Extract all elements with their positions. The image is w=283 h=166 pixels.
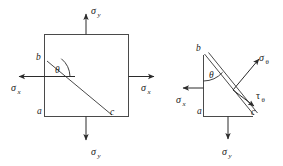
right-theta-label: θ: [209, 70, 214, 80]
stress-element-diagram: b a c θ σ y σ y σ x σ x: [0, 0, 283, 166]
right-sigma-x-label: σ x: [176, 94, 187, 108]
sigma-theta-label: σ θ: [259, 52, 270, 66]
subscript-glyph: x: [147, 88, 152, 96]
right-vertex-label-c: c: [251, 107, 256, 117]
diagram-canvas: b a c θ σ y σ y σ x σ x: [0, 0, 283, 166]
sigma-glyph: σ: [91, 5, 97, 16]
left-theta-label: θ: [55, 65, 60, 75]
left-figure-group: b a c θ σ y σ y σ x σ x: [11, 5, 154, 160]
sigma-glyph: σ: [176, 94, 182, 105]
square-outline: [45, 35, 129, 117]
right-vertex-label-b: b: [196, 43, 201, 53]
tau-theta-arrow: [233, 90, 254, 106]
left-sigma-y-top-label: σ y: [91, 5, 102, 19]
hypotenuse-inner-line: [209, 53, 258, 114]
hypotenuse-outer-line: [205, 54, 255, 115]
sigma-theta-arrow: [233, 59, 259, 90]
subscript-glyph: x: [182, 100, 187, 108]
right-figure-group: b a c θ σ θ τ θ σ x σ y: [176, 43, 270, 160]
left-vertex-label-b: b: [36, 52, 41, 62]
tau-theta-label: τ θ: [256, 90, 266, 104]
left-sigma-x-left-label: σ x: [11, 82, 22, 96]
sigma-glyph: σ: [222, 146, 228, 157]
right-vertex-label-a: a: [197, 106, 202, 116]
subscript-glyph: θ: [262, 96, 266, 104]
subscript-glyph: θ: [266, 58, 270, 66]
sigma-glyph: σ: [259, 52, 265, 63]
left-sigma-x-right-label: σ x: [141, 82, 152, 96]
tau-glyph: τ: [256, 90, 260, 101]
left-vertex-label-c: c: [110, 107, 115, 117]
sigma-glyph: σ: [91, 146, 97, 157]
right-sigma-y-label: σ y: [222, 146, 233, 160]
subscript-glyph: x: [17, 88, 22, 96]
subscript-glyph: y: [97, 11, 102, 19]
left-sigma-y-bottom-label: σ y: [91, 146, 102, 160]
left-vertex-label-a: a: [37, 106, 42, 116]
subscript-glyph: y: [228, 152, 233, 160]
sigma-glyph: σ: [141, 82, 147, 93]
subscript-glyph: y: [97, 152, 102, 160]
sigma-glyph: σ: [11, 82, 17, 93]
